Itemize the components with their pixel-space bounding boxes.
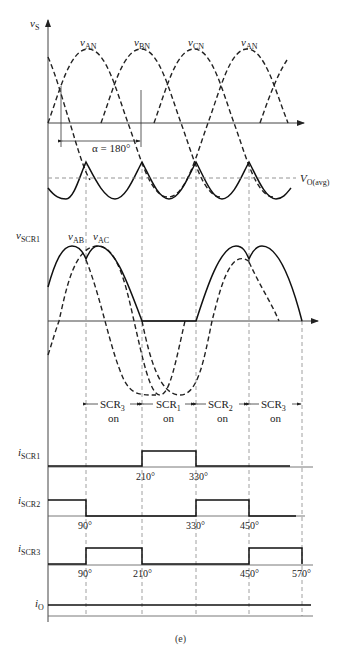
iscr3-waveform bbox=[48, 548, 302, 564]
scr2-on-label: SCR2 bbox=[208, 398, 233, 413]
iscr1-label: iSCR1 bbox=[18, 446, 40, 461]
svg-text:570°: 570° bbox=[292, 568, 311, 579]
iscr1-waveform bbox=[48, 451, 290, 466]
svg-text:330°: 330° bbox=[186, 520, 205, 531]
label-vAN-2: vAN bbox=[241, 36, 258, 51]
io-label: iO bbox=[35, 597, 44, 612]
scr1-on-label: SCR1 bbox=[156, 398, 181, 413]
svg-text:330°: 330° bbox=[189, 471, 208, 482]
svg-text:450°: 450° bbox=[240, 520, 259, 531]
rectifier-waveform-diagram: vS vAN vBN vCN vAN α = 180° VO(avg) vSCR… bbox=[0, 0, 343, 655]
vo-avg-label: VO(avg) bbox=[300, 172, 330, 187]
vscr1-axis-label: vSCR1 bbox=[16, 229, 40, 244]
svg-text:210°: 210° bbox=[133, 568, 152, 579]
label-vAC: vAC bbox=[93, 230, 109, 245]
scr3-on-label-1: SCR3 bbox=[100, 398, 125, 413]
vs-axis-label: vS bbox=[30, 17, 39, 32]
figure-caption: (e) bbox=[175, 633, 186, 645]
svg-text:on: on bbox=[108, 412, 120, 424]
svg-text:on: on bbox=[270, 412, 282, 424]
svg-text:210°: 210° bbox=[136, 471, 155, 482]
output-voltage-curve bbox=[48, 162, 291, 199]
label-vCN: vCN bbox=[188, 36, 204, 51]
label-vBN: vBN bbox=[134, 36, 150, 51]
label-vAB: vAB bbox=[68, 230, 84, 245]
scr3-on-label-2: SCR3 bbox=[261, 398, 286, 413]
label-vAN-1: vAN bbox=[80, 36, 97, 51]
iscr2-waveform bbox=[48, 500, 296, 516]
alpha-label: α = 180° bbox=[92, 142, 130, 154]
conduction-labels: SCR3 on SCR1 on SCR2 on SCR3 on bbox=[100, 398, 286, 424]
svg-text:90°: 90° bbox=[78, 520, 92, 531]
iscr3-label: iSCR3 bbox=[18, 542, 40, 557]
alpha-marker bbox=[61, 86, 141, 147]
svg-text:90°: 90° bbox=[78, 568, 92, 579]
svg-text:on: on bbox=[217, 412, 229, 424]
svg-text:on: on bbox=[163, 412, 175, 424]
iscr2-label: iSCR2 bbox=[18, 494, 40, 509]
svg-text:450°: 450° bbox=[240, 568, 259, 579]
